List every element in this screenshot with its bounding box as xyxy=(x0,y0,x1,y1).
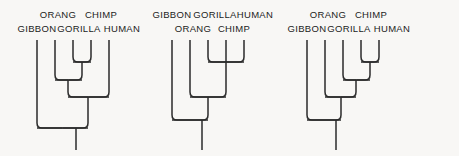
tree-1-tip-label-human: HUMAN xyxy=(104,23,140,34)
tree-3-tip-label-gorilla: GORILLA xyxy=(327,23,371,34)
tree-3-tip-label-gibbon: GIBBON xyxy=(288,23,327,34)
tree-3-branch xyxy=(324,97,341,120)
tree-2-tip-label-gibbon: GIBBON xyxy=(153,9,192,20)
tree-3-branch xyxy=(341,80,357,97)
tree-1-tip-label-gibbon: GIBBON xyxy=(18,23,57,34)
tree-2-tip-label-orang: ORANG xyxy=(175,23,211,34)
tree-1-branch xyxy=(37,40,63,128)
tree-3-branch xyxy=(357,62,371,80)
tree-1-branch xyxy=(82,40,91,62)
tree-2-tip-label-gorilla: GORILLA xyxy=(193,9,237,20)
tree-2-branch xyxy=(208,40,226,62)
tree-3-tip-label-chimp: CHIMP xyxy=(355,9,387,20)
tree-3-branch xyxy=(307,40,324,120)
tree-1-tip-label-orang: ORANG xyxy=(40,9,76,20)
cladogram-canvas: GIBBONORANGGORILLACHIMPHUMANGIBBONORANGG… xyxy=(0,0,459,156)
tree-3-branch xyxy=(325,40,341,97)
tree-1: GIBBONORANGGORILLACHIMPHUMAN xyxy=(18,9,141,150)
tree-3-branch xyxy=(361,40,370,62)
tree-1-tip-label-gorilla: GORILLA xyxy=(57,23,101,34)
tree-1-tip-label-chimp: CHIMP xyxy=(85,9,117,20)
tree-1-branch xyxy=(55,40,69,80)
tree-3-tip-label-orang: ORANG xyxy=(310,9,346,20)
tree-2-branch xyxy=(190,40,208,97)
tree-2-branch xyxy=(190,97,208,120)
tree-2-tip-label-human: HUMAN xyxy=(237,9,273,20)
tree-1-branch xyxy=(73,40,82,62)
tree-3-tip-label-human: HUMAN xyxy=(374,23,410,34)
tree-3-branch xyxy=(370,40,379,62)
tree-2-branch xyxy=(226,40,244,62)
tree-1-branch xyxy=(69,62,83,80)
cladogram-figure: GIBBONORANGGORILLACHIMPHUMANGIBBONORANGG… xyxy=(0,0,459,156)
tree-1-branch xyxy=(63,97,89,128)
tree-3-branch xyxy=(343,40,357,80)
tree-2-branch xyxy=(172,40,190,120)
tree-2-branch xyxy=(208,62,226,97)
tree-2-tip-label-chimp: CHIMP xyxy=(218,23,250,34)
tree-3: GIBBONORANGGORILLACHIMPHUMAN xyxy=(288,9,411,150)
tree-1-branch xyxy=(68,80,89,97)
tree-2: GIBBONORANGGORILLACHIMPHUMAN xyxy=(153,9,274,150)
